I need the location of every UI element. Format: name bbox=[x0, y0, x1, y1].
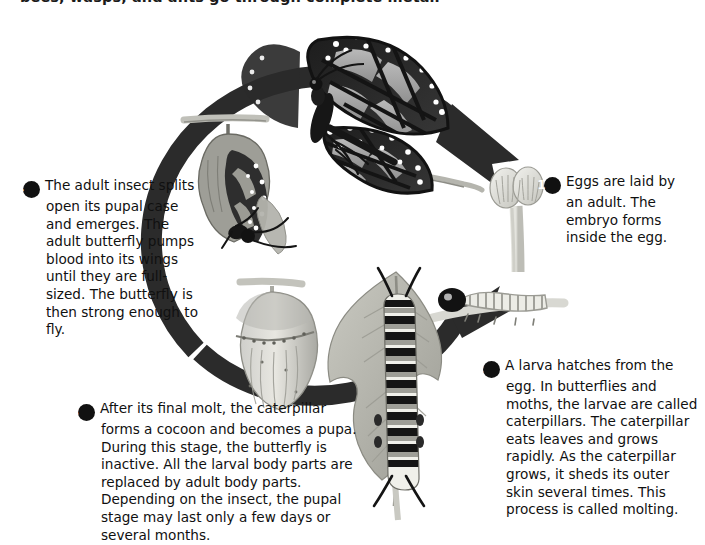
step-2-text: A larva hatches from the egg. In butterf… bbox=[505, 357, 697, 517]
step-4-badge: 4 bbox=[23, 181, 40, 198]
step-4-caption: 4The adult insect splits open its pupal … bbox=[23, 177, 198, 339]
chrysalis-illustration bbox=[236, 281, 318, 410]
step-1-badge: 1 bbox=[544, 177, 561, 194]
eggs-illustration bbox=[490, 167, 543, 272]
step-1-text: Eggs are laid by an adult. The embryo fo… bbox=[566, 173, 675, 245]
step-2-badge: 2 bbox=[483, 361, 500, 378]
adult-butterfly-illustration bbox=[241, 20, 482, 208]
step-3-text: After its final molt, the caterpillar fo… bbox=[100, 400, 356, 543]
step-4-text: The adult insect splits open its pupal c… bbox=[45, 177, 198, 337]
figure-canvas: bees, wasps, and ants go through complet… bbox=[0, 0, 705, 545]
cycle-arrow-ring bbox=[151, 76, 519, 396]
clipped-heading-text: bees, wasps, and ants go through complet… bbox=[20, 0, 440, 5]
step-3-caption: 3After its final molt, the caterpillar f… bbox=[78, 400, 363, 544]
emerging-adult-illustration bbox=[184, 118, 296, 254]
step-1-caption: 1Eggs are laid by an adult. The embryo f… bbox=[544, 173, 696, 247]
larva-hatching-illustration bbox=[432, 287, 564, 325]
step-2-caption: 2A larva hatches from the egg. In butter… bbox=[483, 357, 698, 519]
step-3-badge: 3 bbox=[78, 404, 95, 421]
